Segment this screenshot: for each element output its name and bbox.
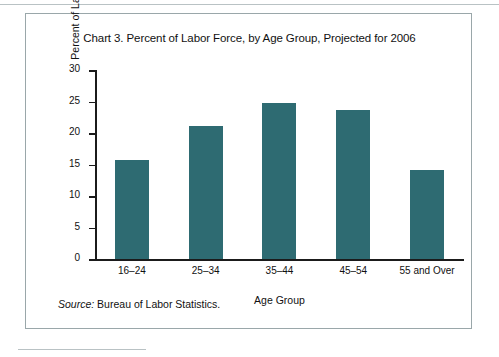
source-note: Source: Bureau of Labor Statistics. xyxy=(58,298,220,310)
bar xyxy=(262,103,296,259)
x-tick-label: 35–44 xyxy=(243,265,317,276)
bar-slot xyxy=(95,70,169,259)
y-tick-label: 20 xyxy=(69,126,80,137)
y-tick-label: 5 xyxy=(74,221,80,232)
bar-slot xyxy=(169,70,243,259)
x-tick-label: 25–34 xyxy=(169,265,243,276)
bar-slot xyxy=(390,70,464,259)
source-label: Source: xyxy=(58,298,94,310)
y-tick-label: 30 xyxy=(69,63,80,74)
y-tick: 0 xyxy=(89,259,95,261)
chart-title: Chart 3. Percent of Labor Force, by Age … xyxy=(26,32,473,44)
bar xyxy=(189,126,223,259)
bar-series xyxy=(95,70,464,259)
page-rule-bottom xyxy=(18,349,146,350)
y-tick-label: 10 xyxy=(69,189,80,200)
bar xyxy=(410,170,444,259)
y-tick-label: 15 xyxy=(69,158,80,169)
bar-slot xyxy=(243,70,317,259)
chart-figure: Chart 3. Percent of Labor Force, by Age … xyxy=(25,13,472,329)
x-tick-label: 55 and Over xyxy=(390,265,464,276)
x-tick-label: 16–24 xyxy=(95,265,169,276)
plot-area: 051015202530 16–2425–3435–4445–5455 and … xyxy=(95,70,464,259)
x-axis-line xyxy=(95,259,464,261)
x-tick-label: 45–54 xyxy=(316,265,390,276)
bar xyxy=(115,160,149,259)
source-text: Bureau of Labor Statistics. xyxy=(97,298,220,310)
bar xyxy=(336,110,370,259)
y-tick-label: 25 xyxy=(69,95,80,106)
bar-slot xyxy=(316,70,390,259)
y-tick-label: 0 xyxy=(74,252,80,263)
